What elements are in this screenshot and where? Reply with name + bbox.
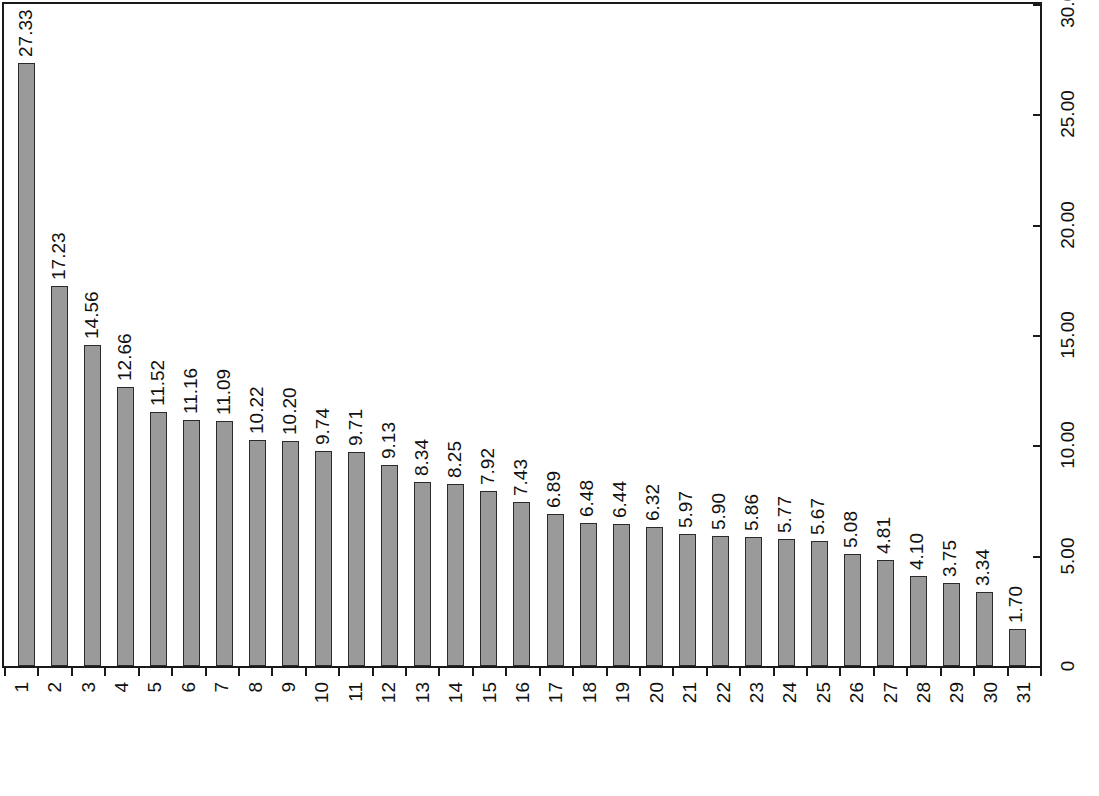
y-tick-mark xyxy=(1033,4,1042,6)
x-tick-rank-label: 5 xyxy=(145,682,164,693)
bar-slot: 5.86 xyxy=(737,4,770,666)
x-tick-rank-label: 23 xyxy=(746,682,765,703)
bar[interactable] xyxy=(414,482,431,666)
bar-slot: 6.89 xyxy=(539,4,572,666)
x-tick-mark xyxy=(104,668,106,676)
bar[interactable] xyxy=(117,387,134,666)
x-tick-mark xyxy=(205,668,207,676)
bar[interactable] xyxy=(183,420,200,666)
bar-slot: 11.09 xyxy=(208,4,241,666)
bar-value-label: 8.34 xyxy=(412,439,431,476)
bar[interactable] xyxy=(216,421,233,666)
bar[interactable] xyxy=(348,452,365,666)
bar-value-label: 6.48 xyxy=(577,480,596,517)
x-tick-rank-label: 26 xyxy=(847,682,866,703)
bar-value-label: 5.67 xyxy=(808,498,827,535)
bar[interactable] xyxy=(51,286,68,666)
plot-area: 27.3317.2314.5612.6611.5211.1611.0910.22… xyxy=(2,2,1042,668)
y-tick-label: 15.00 xyxy=(1058,311,1077,359)
bar-slot: 8.25 xyxy=(439,4,472,666)
x-tick-rank-label: 25 xyxy=(813,682,832,703)
bar-value-label: 5.90 xyxy=(709,493,728,530)
bar[interactable] xyxy=(679,534,696,666)
bar[interactable] xyxy=(480,491,497,666)
x-tick-rank-label: 19 xyxy=(613,682,632,703)
bar[interactable] xyxy=(811,541,828,666)
x-tick-rank-label: 20 xyxy=(646,682,665,703)
x-tick-rank-label: 24 xyxy=(780,682,799,703)
x-tick-rank-label: 1 xyxy=(11,682,30,693)
x-tick-rank-label: 13 xyxy=(412,682,431,703)
x-tick-mark xyxy=(906,668,908,676)
bar[interactable] xyxy=(580,523,597,666)
x-tick-mark xyxy=(71,668,73,676)
bar[interactable] xyxy=(249,440,266,666)
bar-slot: 11.52 xyxy=(142,4,175,666)
x-tick-mark xyxy=(773,668,775,676)
bar[interactable] xyxy=(745,537,762,666)
bar[interactable] xyxy=(877,560,894,666)
bar[interactable] xyxy=(943,583,960,666)
bar-slot: 7.92 xyxy=(472,4,505,666)
x-tick-rank-label: 7 xyxy=(212,682,231,693)
bar[interactable] xyxy=(447,484,464,666)
bar[interactable] xyxy=(282,441,299,666)
bar[interactable] xyxy=(844,554,861,666)
bar[interactable] xyxy=(84,345,101,666)
x-tick-rank-label: 22 xyxy=(713,682,732,703)
x-tick-mark xyxy=(606,668,608,676)
bar-value-label: 6.44 xyxy=(610,481,629,518)
bar-slot: 6.48 xyxy=(572,4,605,666)
bar-value-label: 11.52 xyxy=(148,360,167,406)
y-tick-label: 0 xyxy=(1058,661,1077,672)
bar[interactable] xyxy=(976,592,993,666)
bar[interactable] xyxy=(513,502,530,666)
bar-slot: 4.10 xyxy=(902,4,935,666)
x-tick-mark xyxy=(839,668,841,676)
bar-slot: 6.32 xyxy=(638,4,671,666)
bar[interactable] xyxy=(1009,629,1026,667)
bar[interactable] xyxy=(613,524,630,666)
bar-value-label: 27.33 xyxy=(16,9,35,57)
x-tick-rank-label: 29 xyxy=(947,682,966,703)
bar-slot: 10.22 xyxy=(241,4,274,666)
x-tick-mark xyxy=(873,668,875,676)
bar-value-label: 7.43 xyxy=(511,459,530,496)
y-tick-label: 30.00 xyxy=(1058,0,1077,28)
bar[interactable] xyxy=(381,465,398,666)
x-tick-rank-label: 9 xyxy=(279,682,298,693)
bar-slot: 7.43 xyxy=(505,4,538,666)
bar-value-label: 17.23 xyxy=(49,232,68,280)
x-tick-rank-label: 27 xyxy=(880,682,899,703)
x-tick-rank-label: 17 xyxy=(546,682,565,703)
bar[interactable] xyxy=(778,539,795,666)
y-tick-mark xyxy=(1033,335,1042,337)
x-tick-mark xyxy=(639,668,641,676)
x-tick-rank-label: 4 xyxy=(111,682,130,693)
bar[interactable] xyxy=(646,527,663,666)
bar[interactable] xyxy=(315,451,332,666)
x-tick-rank-label: 3 xyxy=(78,682,97,693)
x-tick-mark xyxy=(271,668,273,676)
x-tick-mark xyxy=(672,668,674,676)
bar[interactable] xyxy=(910,576,927,666)
x-tick-rank-label: 6 xyxy=(178,682,197,693)
x-tick-mark xyxy=(4,668,6,676)
bar[interactable] xyxy=(712,536,729,666)
bar[interactable] xyxy=(547,514,564,666)
x-tick-rank-label: 11 xyxy=(345,682,364,702)
bar-slot: 9.71 xyxy=(340,4,373,666)
x-tick-mark xyxy=(505,668,507,676)
y-tick-label: 25.00 xyxy=(1058,91,1077,139)
bar-slot: 6.44 xyxy=(605,4,638,666)
x-tick-rank-label: 30 xyxy=(980,682,999,703)
bar-value-label: 6.32 xyxy=(643,484,662,521)
y-tick-label: 10.00 xyxy=(1058,422,1077,470)
bar-value-label: 5.97 xyxy=(676,491,695,528)
bar[interactable] xyxy=(18,63,35,666)
bar-slot: 4.81 xyxy=(869,4,902,666)
bar-value-label: 1.70 xyxy=(1006,586,1025,623)
bar-value-label: 4.81 xyxy=(874,517,893,554)
x-tick-mark xyxy=(706,668,708,676)
bar[interactable] xyxy=(150,412,167,666)
